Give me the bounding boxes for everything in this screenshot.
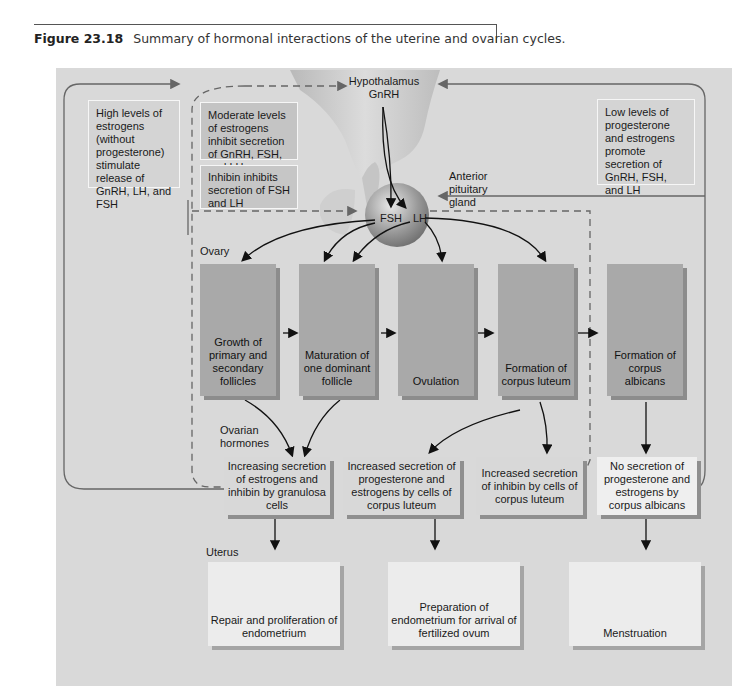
uterus-stage-repair: Repair and proliferation of endometrium xyxy=(208,562,340,646)
high-estrogen-box: High levels of estrogens (without proges… xyxy=(88,100,180,188)
lh-label: LH xyxy=(413,212,427,225)
ovary-stage-ovulation: Ovulation xyxy=(398,264,474,396)
ovary-stage-corpus-luteum: Formation of corpus luteum xyxy=(498,264,574,396)
uterus-stage-label: Preparation of endometrium for arrival o… xyxy=(388,601,520,640)
hormone-box-inhibin: Increased secretion of inhibin by cells … xyxy=(476,457,583,515)
stage-label: Maturation of one dominant follicle xyxy=(299,349,375,388)
uterus-stage-preparation: Preparation of endometrium for arrival o… xyxy=(388,562,520,646)
stage-label: Formation of corpus luteum xyxy=(498,362,574,388)
uterus-stage-label: Menstruation xyxy=(569,627,701,640)
low-levels-box: Low levels of progesterone and estrogens… xyxy=(597,99,695,185)
uterus-stage-label: Repair and proliferation of endometrium xyxy=(208,614,340,640)
stage-label: Ovulation xyxy=(398,375,474,388)
uterus-label: Uterus xyxy=(206,546,238,559)
uterus-stage-menstruation: Menstruation xyxy=(569,562,701,646)
hormone-box-corpus-luteum: Increased secretion of progesterone and … xyxy=(343,457,460,515)
ovary-stage-maturation: Maturation of one dominant follicle xyxy=(299,264,375,396)
anterior-pituitary-label: Anterior pituitary gland xyxy=(449,170,509,209)
ovary-label: Ovary xyxy=(200,245,229,258)
ovary-stage-growth: Growth of primary and secondary follicle… xyxy=(200,264,276,396)
hypothalamus-label: HypothalamusGnRH xyxy=(344,75,424,101)
hormone-box-granulosa: Increasing secretion of estrogens and in… xyxy=(224,457,330,515)
ovary-stage-corpus-albicans: Formation of corpus albicans xyxy=(607,264,683,396)
gnrh-text: GnRH xyxy=(369,88,400,100)
inhibin-box: Inhibin inhibits secretion of FSH and LH xyxy=(200,165,298,209)
ovarian-hormones-label: Ovarian hormones xyxy=(220,424,280,450)
moderate-estrogen-box: Moderate levels of estrogens inhibit sec… xyxy=(200,102,298,160)
hypothalamus-text: Hypothalamus xyxy=(349,75,419,87)
stage-label: Growth of primary and secondary follicle… xyxy=(200,336,276,388)
fsh-label: FSH xyxy=(380,212,402,225)
stage-label: Formation of corpus albicans xyxy=(607,349,683,388)
hormone-box-no-secretion: No secretion of progesterone and estroge… xyxy=(597,457,697,515)
